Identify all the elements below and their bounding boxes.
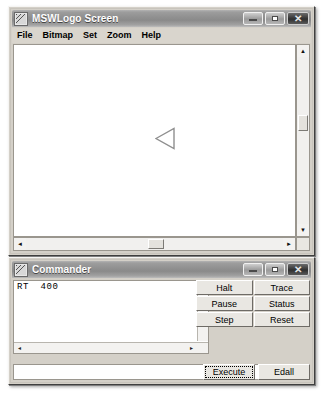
commander-body: RT 400 ▲ ◄ ► Halt Trace Pause Status S	[13, 280, 310, 380]
history-scroll-right-icon[interactable]: ►	[187, 344, 196, 353]
vertical-scrollbar-thumb[interactable]	[298, 115, 308, 131]
reset-button[interactable]: Reset	[254, 312, 311, 327]
scroll-down-icon[interactable]: ▼	[297, 224, 309, 236]
commander-title: Commander	[32, 264, 243, 275]
maximize-icon[interactable]	[265, 263, 285, 276]
menu-item-file[interactable]: File	[12, 28, 38, 43]
halt-button[interactable]: Halt	[196, 280, 253, 295]
trace-button[interactable]: Trace	[254, 280, 311, 295]
commander-titlebar[interactable]: Commander ✕	[12, 261, 311, 278]
horizontal-scrollbar-thumb[interactable]	[148, 239, 164, 249]
status-button[interactable]: Status	[254, 296, 311, 311]
minimize-icon[interactable]	[243, 263, 263, 276]
execute-button[interactable]: Execute	[203, 364, 255, 380]
close-glyph: ✕	[288, 264, 308, 275]
pause-button[interactable]: Pause	[196, 296, 253, 311]
menu-item-set[interactable]: Set	[78, 28, 102, 43]
mswlogo-app-icon	[14, 12, 28, 26]
minimize-icon[interactable]	[243, 12, 263, 25]
history-scroll-left-icon[interactable]: ◄	[15, 344, 24, 353]
mswlogo-screen-window: MSWLogo Screen ✕ File Bitmap Set Zoom He…	[8, 6, 315, 256]
scrollbar-corner-grip	[296, 237, 310, 251]
menu-item-zoom[interactable]: Zoom	[102, 28, 137, 43]
main-window-title: MSWLogo Screen	[32, 13, 243, 24]
menu-item-help[interactable]: Help	[137, 28, 167, 43]
commander-button-grid: Halt Trace Pause Status Step Reset	[196, 280, 310, 327]
command-history-text: RT 400	[14, 281, 208, 293]
close-icon[interactable]: ✕	[287, 12, 309, 25]
edall-button[interactable]: Edall	[258, 364, 310, 380]
canvas-vertical-scrollbar[interactable]: ▲ ▼	[296, 44, 310, 237]
commander-action-buttons: Execute Edall	[203, 364, 310, 380]
history-horizontal-scrollbar[interactable]: ◄ ►	[14, 342, 208, 353]
close-icon[interactable]: ✕	[287, 263, 309, 276]
screen-root: MSWLogo Screen ✕ File Bitmap Set Zoom He…	[0, 0, 323, 395]
main-menubar: File Bitmap Set Zoom Help	[12, 28, 311, 43]
commander-window-controls: ✕	[243, 263, 309, 276]
commander-window: Commander ✕ RT 400 ▲	[8, 257, 315, 385]
scroll-left-icon[interactable]: ◄	[14, 238, 26, 250]
command-history-pane[interactable]: RT 400 ▲ ◄ ►	[13, 280, 209, 354]
canvas-horizontal-scrollbar[interactable]: ◄ ►	[13, 237, 296, 251]
scroll-right-icon[interactable]: ►	[283, 238, 295, 250]
step-button[interactable]: Step	[196, 312, 253, 327]
scroll-up-icon[interactable]: ▲	[297, 45, 309, 57]
menu-item-bitmap[interactable]: Bitmap	[38, 28, 79, 43]
close-glyph: ✕	[288, 13, 308, 24]
main-window-titlebar[interactable]: MSWLogo Screen ✕	[12, 10, 311, 27]
maximize-icon[interactable]	[265, 12, 285, 25]
main-window-controls: ✕	[243, 12, 309, 25]
mswlogo-app-icon	[14, 263, 28, 277]
canvas-wrapper: ▲ ▼ ◄ ►	[13, 44, 310, 251]
logo-drawing-canvas[interactable]	[13, 44, 296, 237]
